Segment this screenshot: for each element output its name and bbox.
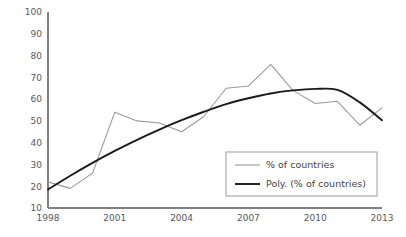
y-tick-label: 60 [31, 94, 43, 104]
legend-label: Poly. (% of countries) [266, 178, 366, 189]
y-tick-label: 80 [31, 51, 43, 61]
y-axis-tick-labels: 102030405060708090100 [25, 7, 42, 213]
x-tick-label: 2001 [103, 213, 126, 223]
y-tick-label: 70 [31, 73, 43, 83]
y-tick-label: 90 [31, 29, 43, 39]
y-tick-label: 40 [31, 138, 43, 148]
y-tick-label: 50 [31, 116, 43, 126]
x-axis-tick-labels: 199820012004200720102013 [37, 213, 394, 223]
chart-container: 102030405060708090100 199820012004200720… [0, 0, 406, 237]
x-tick-label: 2010 [304, 213, 327, 223]
chart-legend: % of countriesPoly. (% of countries) [226, 152, 377, 196]
x-tick-label: 1998 [37, 213, 60, 223]
y-tick-label: 10 [31, 203, 43, 213]
y-tick-label: 100 [25, 7, 42, 17]
y-tick-label: 30 [31, 160, 43, 170]
x-tick-label: 2013 [371, 213, 394, 223]
legend-label: % of countries [266, 159, 334, 170]
x-tick-label: 2007 [237, 213, 260, 223]
x-tick-label: 2004 [170, 213, 193, 223]
line-chart: 102030405060708090100 199820012004200720… [0, 0, 406, 237]
y-tick-label: 20 [31, 182, 43, 192]
